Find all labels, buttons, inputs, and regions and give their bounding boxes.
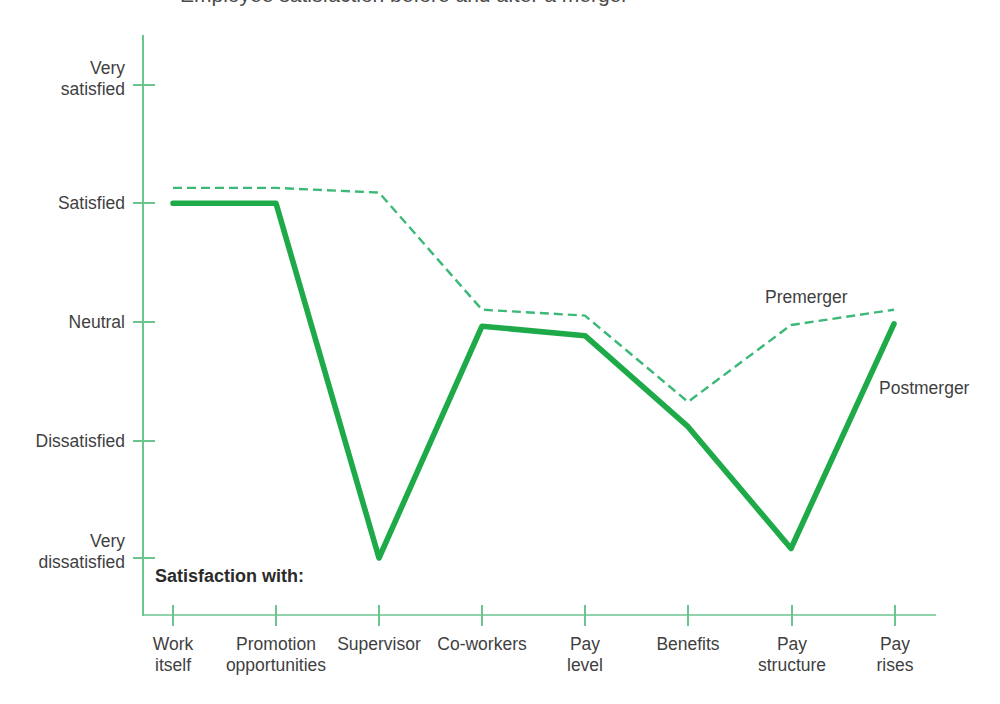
series-annotation-premerger: Premerger: [765, 287, 848, 308]
y-tick-label-satisfied: Satisfied: [20, 193, 125, 214]
x-tick-label-work-itself: Work itself: [153, 634, 194, 676]
x-tick-label-pay-structure: Pay structure: [758, 634, 826, 676]
x-tick-label-co-workers: Co-workers: [437, 634, 526, 655]
x-tick-label-promotion-opportunities: Promotion opportunities: [226, 634, 326, 676]
satisfaction-line-chart: Employee satisfaction before and after a…: [0, 0, 1000, 704]
x-tick-label-pay-level: Pay level: [567, 634, 603, 676]
y-tick-label-very-dissatisfied: Very dissatisfied: [12, 531, 125, 573]
y-tick-label-very-satisfied: Very satisfied: [20, 58, 125, 100]
x-tick-label-supervisor: Supervisor: [337, 634, 421, 655]
y-tick-label-neutral: Neutral: [20, 312, 125, 333]
y-tick-label-dissatisfied: Dissatisfied: [12, 431, 125, 452]
series-annotation-postmerger: Postmerger: [879, 378, 969, 399]
series-line-postmerger: [173, 203, 894, 558]
x-tick-label-benefits: Benefits: [656, 634, 719, 655]
axis-caption: Satisfaction with:: [155, 566, 304, 587]
x-tick-label-pay-rises: Pay rises: [877, 634, 914, 676]
chart-canvas: [0, 0, 1000, 704]
